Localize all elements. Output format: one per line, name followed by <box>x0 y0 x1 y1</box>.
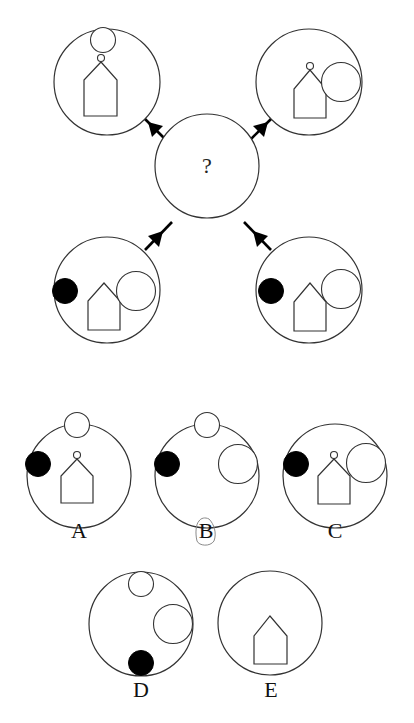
option-e[interactable]: E <box>218 571 322 702</box>
option-label-b: B <box>199 518 214 543</box>
black-dot-icon <box>284 452 309 477</box>
option-label-e: E <box>264 677 277 702</box>
large-circle-icon <box>322 270 361 309</box>
stimulus-bottom-right <box>256 237 362 343</box>
option-label-a: A <box>71 518 87 543</box>
small-circle-icon <box>195 413 220 438</box>
large-circle-icon <box>219 445 258 484</box>
large-circle-icon <box>322 63 361 102</box>
small-circle-icon <box>91 28 116 53</box>
option-c[interactable]: C <box>283 424 387 543</box>
stimulus-bottom-left <box>53 237 161 343</box>
question-mark: ? <box>202 153 212 178</box>
stimulus-top-left <box>54 28 160 136</box>
large-circle-icon <box>347 444 386 483</box>
option-d[interactable]: D <box>89 572 193 703</box>
small-circle-icon <box>65 413 90 438</box>
apex-circle-icon <box>307 63 314 70</box>
apex-circle-icon <box>98 55 105 62</box>
black-dot-icon <box>129 651 154 676</box>
apex-circle-icon <box>74 452 81 459</box>
center-unknown: ? <box>155 114 259 218</box>
option-label-d: D <box>133 677 149 702</box>
black-dot-icon <box>26 452 51 477</box>
puzzle-diagram: ? A B C <box>0 0 414 723</box>
apex-circle-icon <box>331 452 338 459</box>
black-dot-icon <box>155 452 180 477</box>
small-circle-icon <box>129 572 154 597</box>
stimulus-top-right <box>256 29 362 135</box>
option-a[interactable]: A <box>26 413 132 544</box>
option-b[interactable]: B <box>155 413 260 546</box>
black-dot-icon <box>259 279 284 304</box>
black-dot-icon <box>53 279 78 304</box>
large-circle-icon <box>154 605 193 644</box>
option-label-c: C <box>328 518 343 543</box>
large-circle-icon <box>117 272 156 311</box>
